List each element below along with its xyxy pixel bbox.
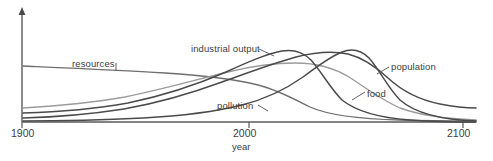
chart-container: resources industrial output population f… <box>0 0 493 161</box>
y-axis-arrowhead <box>19 7 26 15</box>
series-label-food: food <box>367 89 386 99</box>
series-label-industrial-output: industrial output <box>191 44 260 54</box>
series-label-population: population <box>391 62 436 72</box>
series-label-resources: resources <box>72 59 115 69</box>
x-tick-label-2000: 2000 <box>233 128 256 139</box>
y-axis <box>19 7 26 122</box>
series-label-pollution: pollution <box>217 101 253 111</box>
leader-food <box>352 92 365 100</box>
x-tick-label-2100: 2100 <box>447 128 470 139</box>
x-tick-label-1900: 1900 <box>11 128 34 139</box>
leader-pollution <box>258 105 268 111</box>
x-axis-title: year <box>232 142 250 152</box>
